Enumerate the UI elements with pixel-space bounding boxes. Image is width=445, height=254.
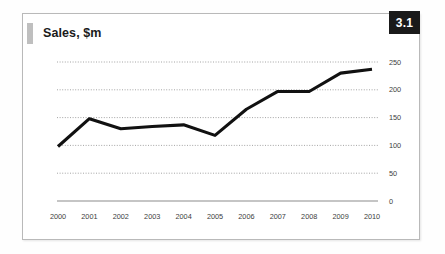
plot-area: 050100150200250 200020012002200320042005… (23, 14, 421, 241)
x-axis-tick-label: 2006 (238, 212, 254, 221)
x-axis-tick-labels: 2000200120022003200420052006200720082009… (50, 212, 380, 221)
x-axis-tick-label: 2002 (113, 212, 129, 221)
x-axis-tick-label: 2009 (332, 212, 348, 221)
x-axis-tick-label: 2003 (144, 212, 160, 221)
data-series-group (58, 69, 372, 146)
chart-panel: Sales, $m 3.1 050100150200250 2000200120… (22, 13, 420, 240)
x-axis-tick-label: 2007 (270, 212, 286, 221)
y-axis-tick-label: 50 (389, 169, 397, 178)
y-axis-tick-label: 250 (389, 58, 401, 67)
x-axis-tick-label: 2004 (175, 212, 191, 221)
y-axis-tick-label: 0 (389, 197, 393, 206)
x-axis-tick-label: 2000 (50, 212, 66, 221)
data-series-line (58, 69, 372, 146)
x-axis-tick-label: 2008 (301, 212, 317, 221)
line-chart-svg: 050100150200250 200020012002200320042005… (23, 14, 421, 241)
y-axis-tick-label: 100 (389, 141, 401, 150)
y-axis-tick-label: 150 (389, 113, 401, 122)
y-axis-tick-labels: 050100150200250 (389, 58, 401, 206)
y-axis-tick-label: 200 (389, 85, 401, 94)
x-axis-tick-label: 2010 (364, 212, 380, 221)
x-axis-tick-label: 2001 (81, 212, 97, 221)
page-background: Sales, $m 3.1 050100150200250 2000200120… (0, 0, 445, 254)
x-axis-tick-label: 2005 (207, 212, 223, 221)
